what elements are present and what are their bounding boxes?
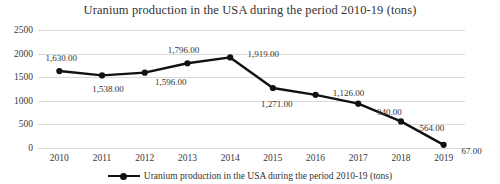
plot-area: 0500100015002000250020102011201220132014… <box>38 30 465 148</box>
data-point-label: 564.00 <box>420 123 445 133</box>
data-point-marker <box>270 85 276 91</box>
data-point-label: 1,796.00 <box>168 45 200 55</box>
y-axis-tick-label: 2500 <box>14 25 33 35</box>
legend-marker-icon <box>108 171 140 181</box>
y-axis-tick-label: 1000 <box>14 96 33 106</box>
data-point-label: 1,126.00 <box>333 88 365 98</box>
data-point-label: 940.00 <box>377 107 402 117</box>
data-point-marker <box>99 72 105 78</box>
data-point-marker <box>398 118 404 124</box>
chart-title: Uranium production in the USA during the… <box>0 3 500 18</box>
data-point-label: 67.00 <box>462 146 482 156</box>
x-axis-tick-label: 2016 <box>306 153 325 163</box>
x-axis-tick-label: 2014 <box>221 153 240 163</box>
x-axis-tick-label: 2011 <box>93 153 112 163</box>
series-line <box>59 57 443 144</box>
legend-item-label: Uranium production in the USA during the… <box>144 171 392 181</box>
data-point-label: 1,271.00 <box>261 99 293 109</box>
x-axis-tick-label: 2015 <box>263 153 282 163</box>
chart-legend: Uranium production in the USA during the… <box>0 171 500 181</box>
data-point-marker <box>441 142 447 148</box>
x-axis-tick-label: 2013 <box>178 153 197 163</box>
x-axis-tick-label: 2017 <box>349 153 368 163</box>
data-point-label: 1,596.00 <box>155 77 187 87</box>
data-point-marker <box>184 60 190 66</box>
y-axis-tick-label: 500 <box>19 119 33 129</box>
chart-container: Uranium production in the USA during the… <box>0 0 500 184</box>
y-axis-tick-label: 0 <box>28 143 33 153</box>
y-axis-tick-label: 2000 <box>14 49 33 59</box>
gridline <box>38 148 465 149</box>
x-axis-tick-label: 2012 <box>135 153 154 163</box>
y-axis-tick-label: 1500 <box>14 72 33 82</box>
data-point-label: 1,630.00 <box>46 53 78 63</box>
x-axis-tick-label: 2018 <box>391 153 410 163</box>
data-point-marker <box>142 70 148 76</box>
data-point-label: 1,538.00 <box>92 84 124 94</box>
data-point-marker <box>355 101 361 107</box>
x-axis-tick-label: 2010 <box>50 153 69 163</box>
data-point-marker <box>312 92 318 98</box>
data-point-marker <box>56 68 62 74</box>
x-axis-tick-label: 2019 <box>434 153 453 163</box>
data-point-label: 1,919.00 <box>247 49 279 59</box>
data-point-marker <box>227 54 233 60</box>
